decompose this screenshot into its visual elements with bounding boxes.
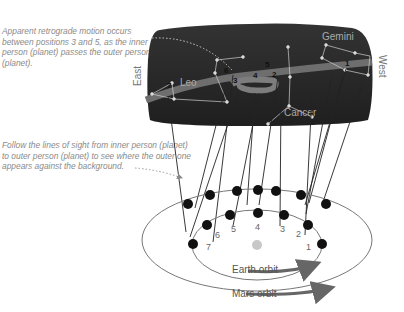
sky-pos-4: 4 (253, 71, 258, 80)
sky-pos-6: 6 (224, 66, 229, 75)
constellation-leo: Leo (180, 77, 197, 88)
sky-pos-2: 2 (272, 70, 277, 79)
constellation-gemini: Gemini (322, 31, 354, 42)
sky-pos-3: 3 (233, 76, 238, 85)
earth-orbit-label: Earth orbit (232, 264, 278, 275)
earth-pos-2: 2 (296, 229, 301, 239)
constellation-cancer: Cancer (284, 107, 317, 118)
mars-orbit-label: Mars orbit (232, 288, 277, 299)
earth-pos-4: 4 (255, 222, 260, 232)
sun-icon (252, 240, 262, 250)
sky-pos-5: 5 (265, 60, 270, 69)
earth-pos-1: 1 (306, 242, 311, 252)
note2-pointer (135, 168, 182, 178)
earth-pos-5: 5 (231, 224, 236, 234)
earth-pos-6: 6 (215, 230, 220, 240)
earth-pos-7: 7 (206, 242, 211, 252)
sky-pos-1: 1 (345, 59, 350, 68)
earth-pos-3: 3 (280, 224, 285, 234)
west-label: West (377, 55, 388, 78)
sky-pos-7: 7 (167, 81, 172, 90)
retrograde-diagram: Leo Gemini Cancer East West 1 2 3 4 5 6 … (0, 0, 404, 312)
east-label: East (132, 66, 143, 86)
